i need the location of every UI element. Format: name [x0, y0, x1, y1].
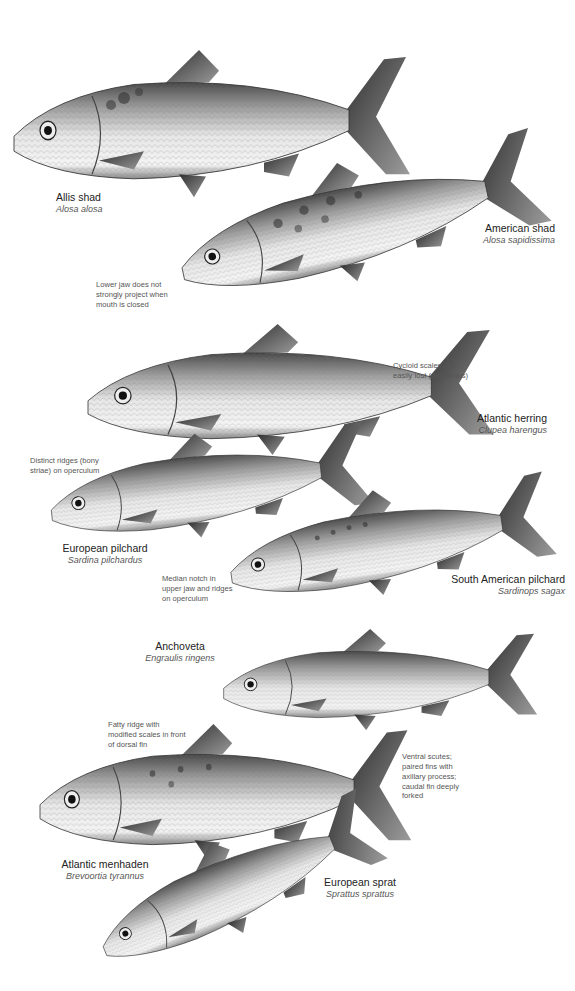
- note-south-american-pilchard-jaw: Median notch in upper jaw and ridges on …: [162, 574, 234, 604]
- species-label-anchoveta: Anchoveta Engraulis ringens: [135, 640, 225, 663]
- common-name: American shad: [483, 222, 555, 235]
- common-name: European pilchard: [50, 542, 160, 555]
- scientific-name: Clupea harengus: [477, 425, 547, 436]
- species-label-american-shad: American shad Alosa sapidissima: [483, 222, 555, 245]
- species-label-south-american-pilchard: South American pilchard Sardinops sagax: [451, 573, 565, 596]
- species-label-allis-shad: Allis shad Alosa alosa: [56, 191, 103, 214]
- species-label-european-pilchard: European pilchard Sardina pilchardus: [50, 542, 160, 565]
- common-name: Anchoveta: [135, 640, 225, 653]
- common-name: Atlantic herring: [477, 412, 547, 425]
- scientific-name: Engraulis ringens: [135, 653, 225, 664]
- note-american-shad-jaw: Lower jaw does not strongly project when…: [96, 280, 176, 310]
- note-atlantic-herring-scales: Cycloid scales are easily lost (deciduou…: [393, 361, 471, 381]
- scientific-name: Alosa alosa: [56, 204, 103, 215]
- note-menhaden-scutes: Ventral scutes; paired fins with axillar…: [402, 752, 474, 801]
- scientific-name: Sardina pilchardus: [50, 555, 160, 566]
- scientific-name: Alosa sapidissima: [483, 235, 555, 246]
- fish-illustration-anchoveta: [222, 625, 542, 720]
- species-label-atlantic-herring: Atlantic herring Clupea harengus: [477, 412, 547, 435]
- common-name: Allis shad: [56, 191, 103, 204]
- common-name: South American pilchard: [451, 573, 565, 586]
- common-name: European sprat: [310, 876, 410, 889]
- fish-illustration-american-shad: [175, 120, 550, 310]
- scientific-name: Sprattus sprattus: [310, 889, 410, 900]
- species-label-european-sprat: European sprat Sprattus sprattus: [310, 876, 410, 899]
- scientific-name: Sardinops sagax: [451, 586, 565, 597]
